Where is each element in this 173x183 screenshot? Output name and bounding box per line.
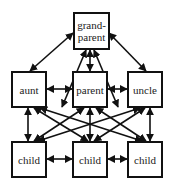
edge-grandparent-aunt [30,33,73,71]
node-child-2-label: child [79,154,101,166]
node-uncle-label: uncle [133,84,157,96]
node-parent-label: parent [76,84,103,96]
node-aunt-label: aunt [20,84,39,96]
node-parent: parent [72,71,108,108]
node-grandparent: grand-parent [73,12,110,50]
edge-grandparent-uncle [109,33,146,71]
node-grandparent-line2: parent [78,31,105,43]
node-child-1-label: child [18,154,40,166]
node-grandparent-line1: grand- [77,19,106,31]
node-aunt: aunt [11,71,47,108]
node-child-3: child [127,141,163,178]
node-uncle: uncle [127,71,163,108]
node-child-2: child [72,141,108,178]
node-child-3-label: child [134,154,156,166]
node-child-1: child [11,141,47,178]
